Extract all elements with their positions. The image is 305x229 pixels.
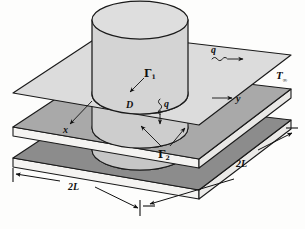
y-axis-label: y <box>235 93 241 104</box>
dim-right-label: 2L <box>235 158 247 169</box>
q-down-label: q <box>164 98 169 109</box>
dim-front-label: 2L <box>67 181 79 192</box>
heat-transfer-figure: Γ1 D q q y x Γ2 <box>0 0 305 229</box>
cylinder-top-face <box>92 1 188 39</box>
ambient-temperature-label: T∞ <box>276 69 288 83</box>
x-axis-label: x <box>62 124 68 135</box>
dim-front-arrow-left <box>16 174 60 181</box>
q-side-label: q <box>211 44 216 55</box>
diameter-label: D <box>125 99 133 110</box>
figure-canvas: Γ1 D q q y x Γ2 <box>0 0 305 229</box>
cylinder-upper <box>92 1 188 114</box>
dim-front-arrow-right <box>95 187 138 208</box>
